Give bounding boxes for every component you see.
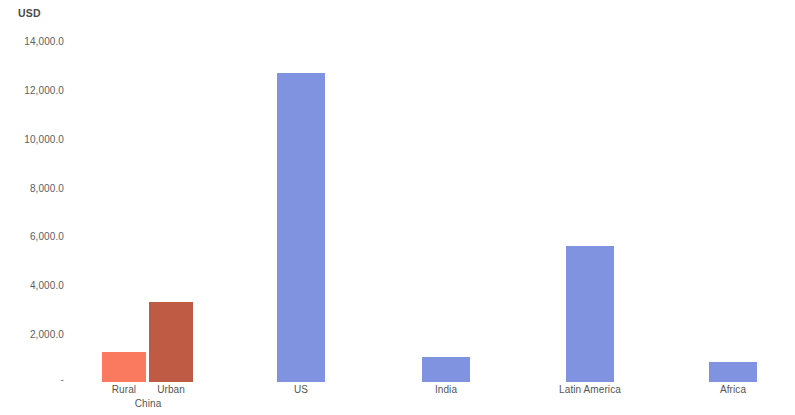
bar-us — [277, 73, 325, 382]
x-tick-label-us: US — [294, 384, 308, 395]
x-tick-label-rural: Rural — [112, 384, 136, 395]
bar-africa — [709, 362, 757, 382]
bar-latin-america — [566, 246, 614, 382]
y-tick-label-2000: 2,000.0 — [30, 329, 64, 340]
y-tick-label-14000: 14,000.0 — [24, 36, 64, 47]
x-tick-label-urban: Urban — [157, 384, 185, 395]
bar-rural — [102, 352, 146, 382]
x-axis: Rural Urban China US India Latin America… — [72, 384, 788, 415]
x-tick-label-africa: Africa — [720, 384, 746, 395]
bar-chart: USD 14,000.0 12,000.0 10,000.0 8,000.0 6… — [0, 0, 795, 415]
y-tick-label-10000: 10,000.0 — [24, 134, 64, 145]
x-group-label-china: China — [135, 398, 162, 409]
y-tick-label-4000: 4,000.0 — [30, 280, 64, 291]
y-tick-label-zero: - — [61, 374, 64, 385]
bar-india — [422, 357, 470, 382]
y-axis: 14,000.0 12,000.0 10,000.0 8,000.0 6,000… — [0, 0, 72, 415]
plot-area — [72, 36, 788, 382]
y-tick-label-6000: 6,000.0 — [30, 231, 64, 242]
y-tick-label-12000: 12,000.0 — [24, 85, 64, 96]
x-tick-label-india: India — [435, 384, 457, 395]
y-tick-label-8000: 8,000.0 — [30, 183, 64, 194]
x-tick-label-latin-america: Latin America — [559, 384, 621, 395]
bar-urban — [149, 302, 193, 382]
